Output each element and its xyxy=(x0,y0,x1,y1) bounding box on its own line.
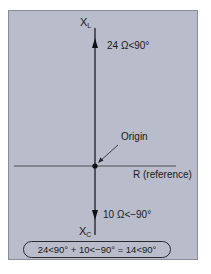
arrow-down-icon xyxy=(92,210,98,220)
equation-text: 24<90° + 10<−90° = 14<90° xyxy=(38,244,157,255)
reference-axis-label: R (reference) xyxy=(133,170,192,180)
phasor-sum-equation: 24<90° + 10<−90° = 14<90° xyxy=(23,241,171,258)
xc-vector-label: 10 Ω<−90° xyxy=(103,210,151,220)
xl-vector-label: 24 Ω<90° xyxy=(107,41,149,51)
origin-dot-icon xyxy=(92,163,97,168)
arrow-up-icon xyxy=(92,38,98,48)
xc-axis-label: XC xyxy=(79,226,91,238)
phasor-diagram-graphic xyxy=(0,0,211,274)
xl-axis-label: XL xyxy=(80,17,91,29)
origin-label: Origin xyxy=(121,132,148,142)
